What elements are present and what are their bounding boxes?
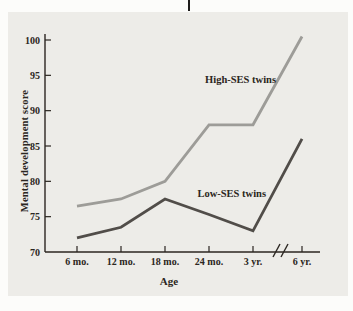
y-tick-label: 100 xyxy=(25,35,40,46)
series-label-low-ses: Low-SES twins xyxy=(166,188,266,199)
x-tick-label: 12 mo. xyxy=(107,256,136,267)
x-tick-label: 6 mo. xyxy=(65,256,89,267)
x-tick-label: 3 yr. xyxy=(244,256,263,267)
y-axis-title: Mental development score xyxy=(18,79,32,223)
line-chart: 7075808590951006 mo.12 mo.18 mo.24 mo.3 … xyxy=(0,0,353,311)
axis-break-slash xyxy=(281,244,288,257)
series-line-high-ses xyxy=(77,36,302,206)
x-tick-label: 6 yr. xyxy=(293,256,312,267)
x-axis-title: Age xyxy=(129,275,209,287)
figure-page: 7075808590951006 mo.12 mo.18 mo.24 mo.3 … xyxy=(0,0,353,311)
y-tick-label: 70 xyxy=(30,247,40,258)
axis-break-slash xyxy=(273,244,280,257)
x-tick-label: 18 mo. xyxy=(151,256,180,267)
series-label-high-ses: High-SES twins xyxy=(176,74,276,85)
x-tick-label: 24 mo. xyxy=(195,256,224,267)
